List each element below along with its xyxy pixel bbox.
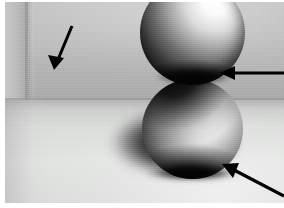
photograph bbox=[5, 2, 284, 203]
image-canvas: Two stacked spheres in a corner box with… bbox=[0, 0, 284, 208]
film-grain-texture bbox=[5, 2, 284, 203]
